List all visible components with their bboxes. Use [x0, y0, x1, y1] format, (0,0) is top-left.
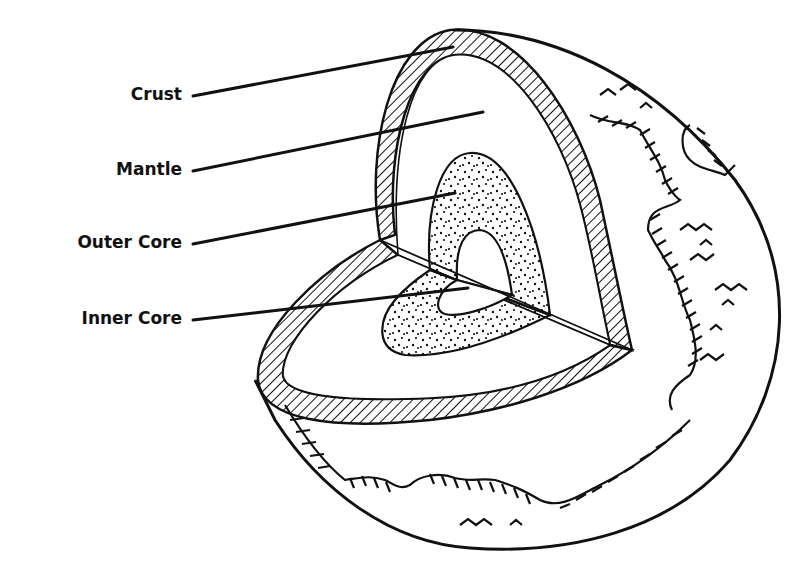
- earth-layers-diagram: Crust Mantle Outer Core Inner Core: [0, 0, 797, 562]
- earth-cutaway-illustration: [0, 0, 797, 562]
